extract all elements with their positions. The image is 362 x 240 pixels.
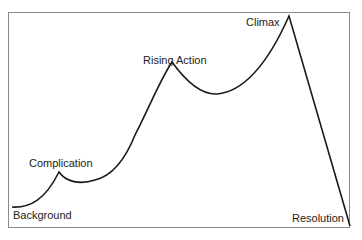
label-complication: Complication <box>29 157 93 169</box>
label-resolution: Resolution <box>292 212 344 224</box>
label-climax: Climax <box>246 16 280 28</box>
story-arc-curve <box>0 0 362 240</box>
label-rising-action: Rising Action <box>143 54 207 66</box>
label-background: Background <box>13 209 72 221</box>
